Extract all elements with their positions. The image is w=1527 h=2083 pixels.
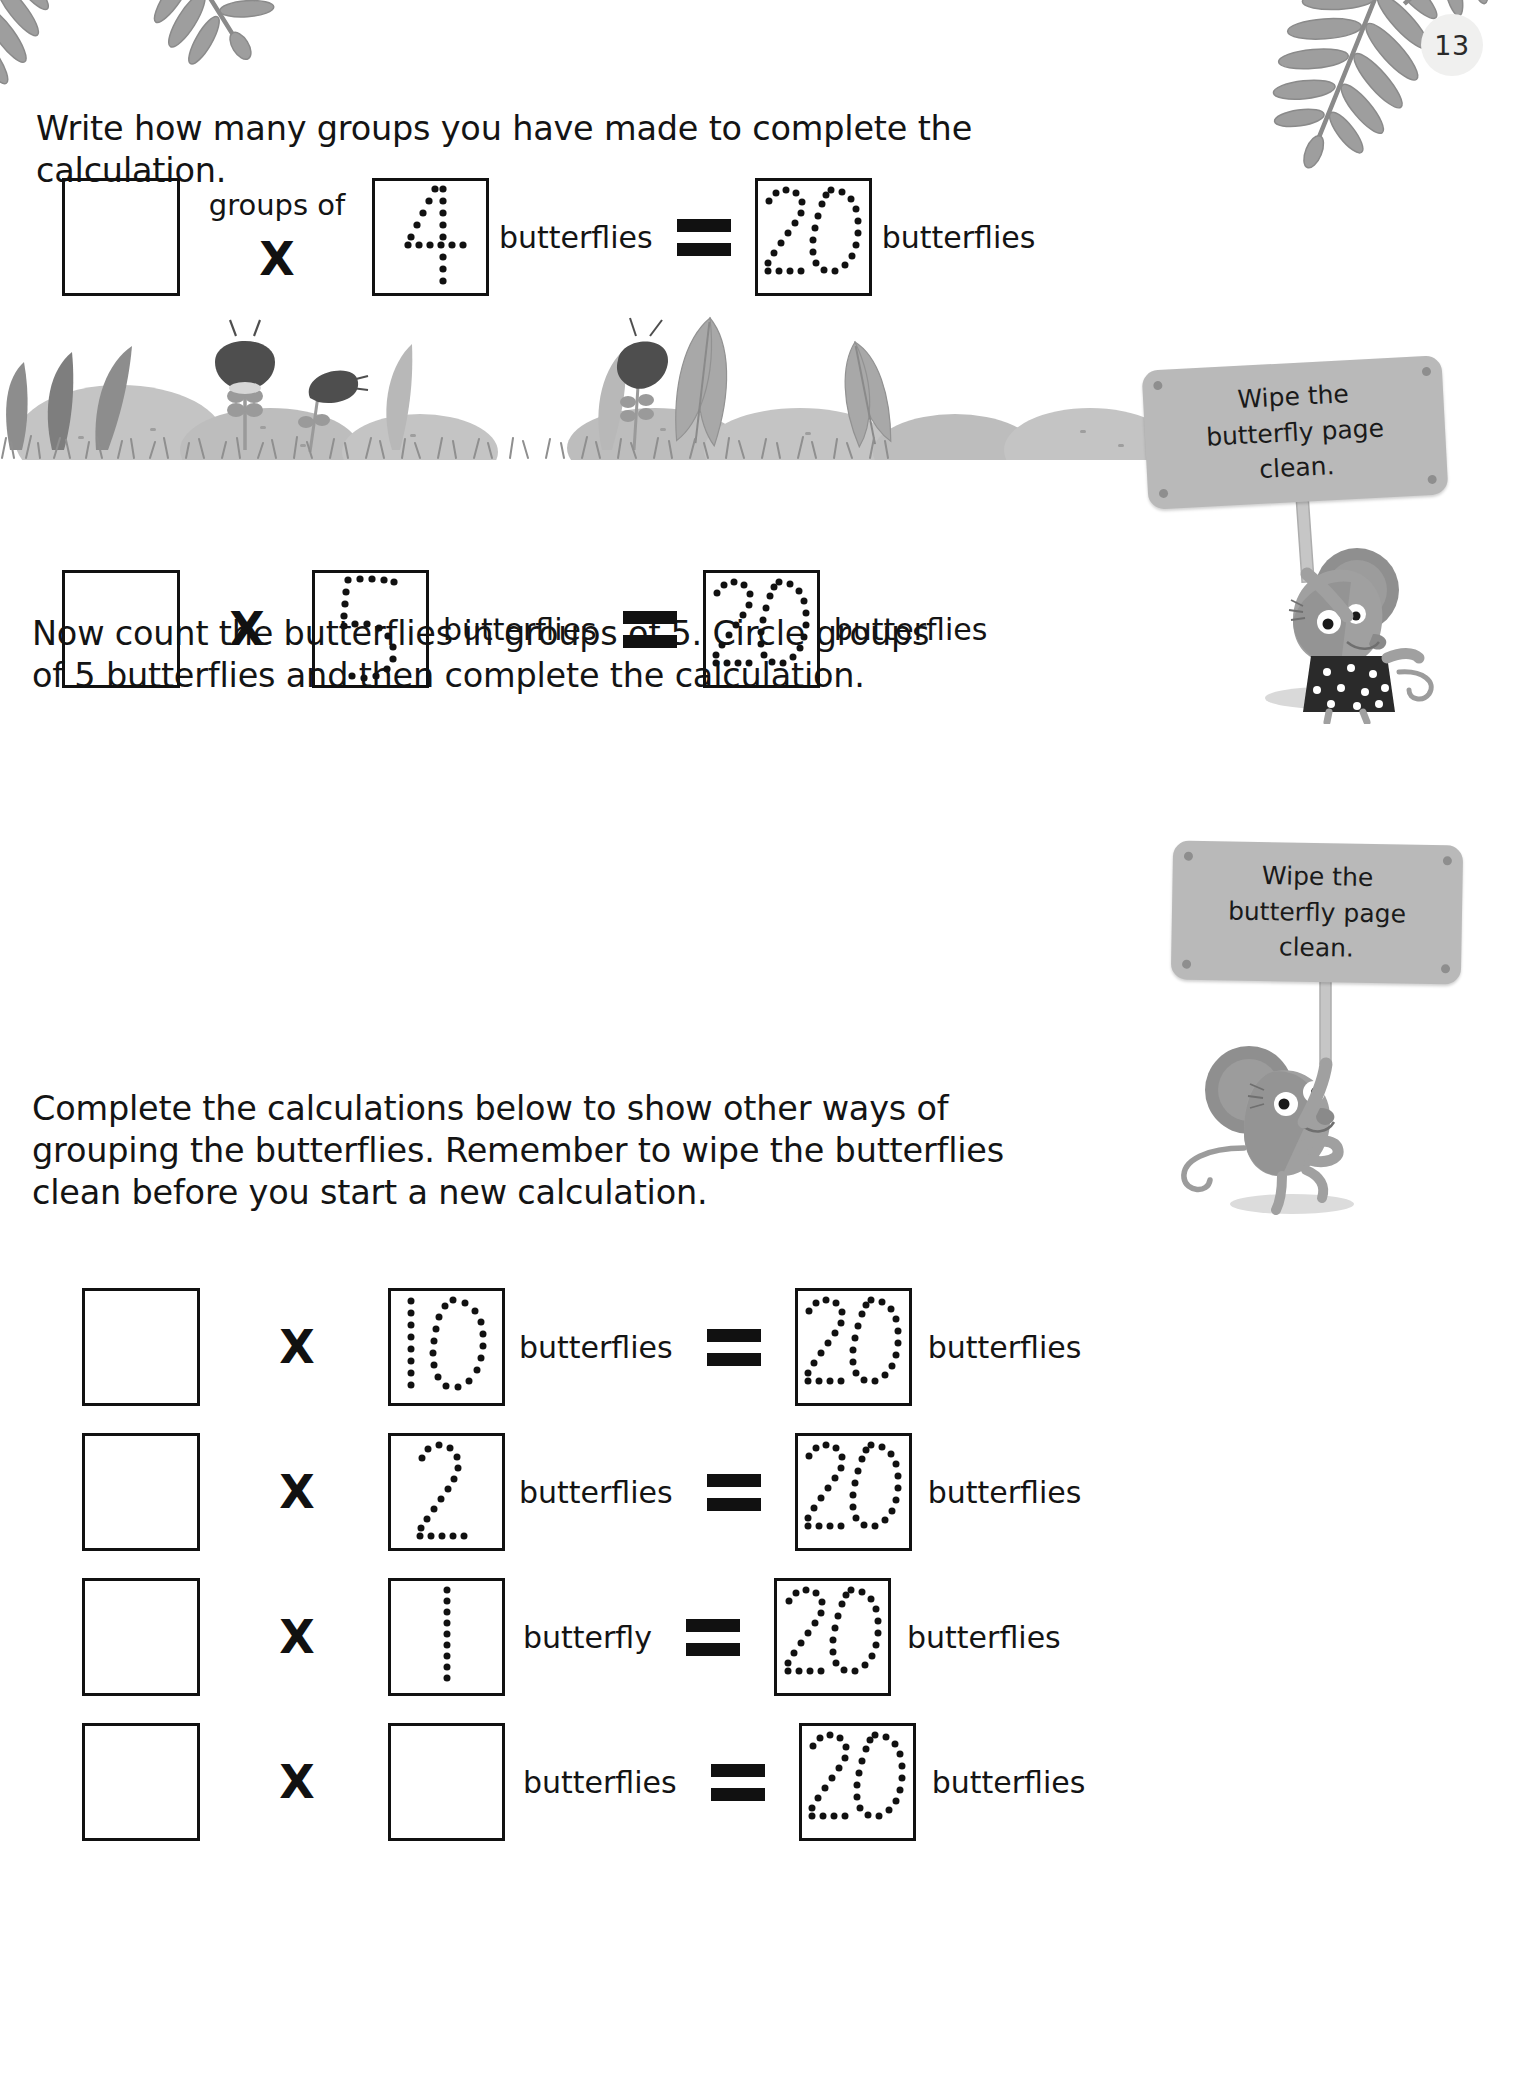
calc-row-6-product-box <box>799 1723 916 1841</box>
mouse-2-icon <box>1124 972 1414 1222</box>
calc-row-3-product-box <box>795 1288 912 1406</box>
calc-row-3: X but <box>82 1288 1081 1406</box>
calc-row-1: groups of X butterfl <box>62 178 1035 296</box>
calc-row-5-equals-icon <box>686 1615 740 1659</box>
calc-row-5-multiplicand-box <box>388 1578 505 1696</box>
calc-row-5-multiplicand-unit: butterfly <box>523 1620 652 1655</box>
traced-number-20-icon <box>801 1440 905 1544</box>
calc-row-4-multiply-icon: X <box>272 1465 322 1519</box>
calc-row-1-groups-of-label: groups of <box>209 188 346 222</box>
page-number: 13 <box>1421 14 1483 76</box>
calc-row-6-answer-box[interactable] <box>82 1723 200 1841</box>
sign-rivet-icon <box>1159 488 1168 497</box>
calc-row-2-answer-box[interactable] <box>62 570 180 688</box>
sign-1-group: Wipe the butterfly page clean. <box>1145 363 1451 728</box>
worksheet-page: 13 Write how many groups you have made t… <box>0 0 1527 2083</box>
calc-row-2-equals-icon <box>623 607 677 651</box>
calc-row-2: X butterflies <box>62 570 987 688</box>
calc-row-2-product-box <box>703 570 820 688</box>
calc-row-2-product-traced <box>706 573 817 685</box>
calc-row-6: X butterflies <box>82 1723 1085 1841</box>
calc-row-2-multiplicand-box <box>312 570 429 688</box>
calc-row-6-multiplicand-traced <box>391 1726 502 1838</box>
calc-row-5-product-box <box>774 1578 891 1696</box>
calc-row-2-multiplicand-traced <box>315 573 426 685</box>
calc-row-3-multiplicand-unit: butterflies <box>519 1330 673 1365</box>
calc-row-1-answer-box[interactable] <box>62 178 180 296</box>
calc-row-6-multiplicand-unit: butterflies <box>523 1765 677 1800</box>
calc-row-5-multiply-icon: X <box>272 1610 322 1664</box>
calc-row-6-answer-value <box>85 1726 197 1838</box>
calc-row-5-answer-value <box>85 1581 197 1693</box>
calc-row-3-multiply-icon: X <box>272 1320 322 1374</box>
calc-row-1-equals-icon <box>677 215 731 259</box>
calc-row-6-product-unit: butterflies <box>932 1765 1086 1800</box>
traced-number-4-icon <box>381 181 481 293</box>
calc-row-5-multiplicand-traced <box>391 1581 502 1693</box>
traced-number-10-icon <box>401 1295 493 1399</box>
calc-row-1-product-unit: butterflies <box>882 220 1036 255</box>
calc-row-6-multiply-icon: X <box>272 1755 322 1809</box>
traced-number-5-icon <box>328 574 414 684</box>
calc-row-5-product-unit: butterflies <box>907 1620 1061 1655</box>
sign-2-group: Wipe the butterfly page clean. <box>1172 843 1462 1226</box>
calc-row-4-multiplicand-box <box>388 1433 505 1551</box>
calc-row-4-answer-box[interactable] <box>82 1433 200 1551</box>
calc-row-4-product-traced <box>798 1436 909 1548</box>
sign-2-line-2: butterfly page <box>1190 892 1445 932</box>
calc-row-1-product-traced <box>758 181 869 293</box>
calc-row-1-multiply-icon: X <box>259 232 294 286</box>
calc-row-4-multiplicand-unit: butterflies <box>519 1475 673 1510</box>
calc-row-6-product-traced <box>802 1726 913 1838</box>
calc-row-3-multiplicand-traced <box>391 1291 502 1403</box>
calc-row-2-product-unit: butterflies <box>834 612 988 647</box>
sign-2-line-3: clean. <box>1189 928 1444 968</box>
sign-2: Wipe the butterfly page clean. <box>1171 840 1463 984</box>
traced-number-20-icon <box>801 1295 905 1399</box>
calc-row-3-answer-value <box>85 1291 197 1403</box>
calc-row-4-equals-icon <box>707 1470 761 1514</box>
traced-number-2-icon <box>404 1440 490 1544</box>
sign-rivet-icon <box>1441 964 1450 973</box>
calc-row-2-multiplicand-unit: butterflies <box>443 612 597 647</box>
sign-1: Wipe the butterfly page clean. <box>1142 355 1449 509</box>
calc-row-2-multiply-icon: X <box>222 602 272 656</box>
calc-row-6-multiplicand-box[interactable] <box>388 1723 505 1841</box>
calc-row-4-multiplicand-traced <box>391 1436 502 1548</box>
traced-number-20-icon <box>761 185 865 289</box>
traced-number-1-icon <box>432 1585 462 1689</box>
calc-row-1-multiplicand-traced <box>375 181 486 293</box>
calc-row-1-multiplicand-unit: butterflies <box>499 220 653 255</box>
sign-rivet-icon <box>1422 367 1431 376</box>
sign-rivet-icon <box>1427 474 1436 483</box>
calc-row-2-answer-value <box>65 573 177 685</box>
calc-row-3-product-unit: butterflies <box>928 1330 1082 1365</box>
calc-row-5-answer-box[interactable] <box>82 1578 200 1696</box>
fern-top-right-decoration <box>1257 0 1527 220</box>
sign-rivet-icon <box>1182 959 1191 968</box>
instruction-3: Complete the calculations below to show … <box>32 1088 1072 1214</box>
mouse-1-icon <box>1151 494 1451 724</box>
traced-number-20-icon <box>709 577 813 681</box>
traced-number-20-icon <box>781 1585 885 1689</box>
calc-row-4-answer-value <box>85 1436 197 1548</box>
calc-row-3-answer-box[interactable] <box>82 1288 200 1406</box>
calc-row-5: X butterfly <box>82 1578 1061 1696</box>
calc-row-4-product-unit: butterflies <box>928 1475 1082 1510</box>
calc-row-1-product-box <box>755 178 872 296</box>
calc-row-1-answer-value <box>65 181 177 293</box>
sign-rivet-icon <box>1184 852 1193 861</box>
calc-row-6-equals-icon <box>711 1760 765 1804</box>
calc-row-3-multiplicand-box <box>388 1288 505 1406</box>
calc-row-4: X butterflies <box>82 1433 1081 1551</box>
calc-row-1-multiplicand-box <box>372 178 489 296</box>
calc-row-3-product-traced <box>798 1291 909 1403</box>
traced-number-20-icon <box>805 1730 909 1834</box>
calc-row-4-product-box <box>795 1433 912 1551</box>
sign-2-line-1: Wipe the <box>1190 857 1445 897</box>
sign-rivet-icon <box>1443 856 1452 865</box>
calc-row-5-product-traced <box>777 1581 888 1693</box>
calc-row-3-equals-icon <box>707 1325 761 1369</box>
